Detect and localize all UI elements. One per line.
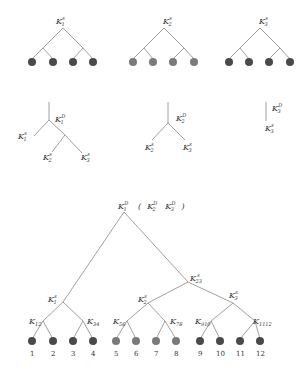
pair-label: K78 <box>169 317 182 327</box>
leaf-label: K3s <box>182 141 192 153</box>
leaf-node <box>196 337 204 345</box>
node-label: K1D <box>54 113 65 125</box>
leaf-number: 11 <box>236 350 245 358</box>
middle-tree-1: K1D K1s K2s K3s <box>17 102 90 163</box>
leaf-node <box>129 58 137 66</box>
key-tree-diagram: K1s K2s K3s K1D K1s K2s K3s K2D K2s K3s … <box>0 0 305 371</box>
k3s-label: K3s <box>228 289 238 301</box>
leaf-node <box>49 58 57 66</box>
pair-label: K56 <box>112 317 126 327</box>
leaf-node <box>89 337 97 345</box>
pair-label: K12 <box>28 317 41 327</box>
leaf-node <box>225 58 233 66</box>
root-label: K2s <box>162 15 172 27</box>
leaf-node <box>112 337 120 345</box>
k1s-label: K1s <box>47 293 57 305</box>
top-tree-1: K1s <box>28 15 97 66</box>
top-tree-2: K2s <box>129 15 198 66</box>
leaf-node <box>149 58 157 66</box>
leaf-label: K2s <box>144 141 154 153</box>
leaf-node <box>89 58 97 66</box>
leaf-label: K2s <box>42 151 52 163</box>
pair-label: K910 <box>194 317 211 327</box>
leaf-node <box>152 337 160 345</box>
leaf-label: K3s <box>264 122 274 134</box>
leaf-number: 1 <box>30 350 34 358</box>
leaf-node <box>172 337 180 345</box>
leaf-node <box>216 337 224 345</box>
leaf-node <box>236 337 244 345</box>
leaf-node <box>245 58 253 66</box>
root-label: K3s <box>258 15 268 27</box>
leaf-node <box>69 337 77 345</box>
leaf-label: K1s <box>17 130 27 142</box>
leaf-node <box>28 337 36 345</box>
root-paren-group: (K2DK3D) <box>138 200 185 212</box>
leaf-number: 9 <box>198 350 202 358</box>
leaf-number: 10 <box>216 350 225 358</box>
bottom-tree: K1D (K2DK3D) K23s K1s K2s K3s K12 K34 K5… <box>28 200 272 358</box>
leaf-node <box>286 58 294 66</box>
node-label: K2D <box>175 112 186 124</box>
top-tree-3: K3s <box>225 15 294 66</box>
leaf-node <box>265 58 273 66</box>
leaf-number: 8 <box>174 350 178 358</box>
middle-tree-2: K2D K2s K3s <box>144 102 192 153</box>
leaf-number: 12 <box>256 350 265 358</box>
leaf-number: 7 <box>154 350 158 358</box>
leaf-node <box>169 58 177 66</box>
leaf-number: 2 <box>51 350 55 358</box>
leaf-node <box>28 58 36 66</box>
leaf-label: K3s <box>80 151 90 163</box>
k23-label: K23s <box>189 272 202 284</box>
leaf-number: 6 <box>134 350 139 358</box>
leaf-number: 5 <box>114 350 118 358</box>
leaf-node <box>256 337 264 345</box>
k2s-label: K2s <box>137 293 147 305</box>
pair-label: K34 <box>86 317 99 327</box>
leaf-node <box>190 58 198 66</box>
middle-tree-3: K3D K3s <box>264 102 282 134</box>
root-label: K1s <box>55 15 65 27</box>
pair-label: K1112 <box>252 317 272 327</box>
root-label: K1D <box>117 200 128 212</box>
leaf-node <box>132 337 140 345</box>
leaf-number: 3 <box>71 350 75 358</box>
leaf-number: 4 <box>91 350 96 358</box>
node-label: K3D <box>271 102 282 114</box>
leaf-node <box>69 58 77 66</box>
leaf-node <box>49 337 57 345</box>
